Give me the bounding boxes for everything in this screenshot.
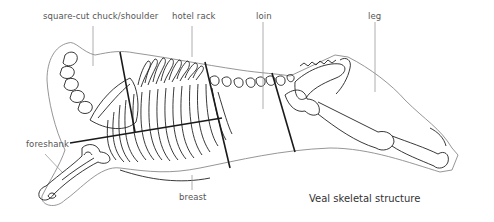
cut-line-chuck [120, 52, 135, 132]
cut-line-rack [205, 62, 230, 168]
cut-lines [70, 52, 295, 168]
label-hotel-rack: hotel rack [172, 11, 216, 21]
label-foreshank: foreshank [26, 139, 69, 149]
label-loin: loin [256, 11, 272, 21]
foreleg-bones-icon [39, 145, 110, 201]
diagram-title: Veal skeletal structure [309, 193, 420, 204]
carcass-outline [42, 43, 458, 206]
label-leg: leg [368, 11, 381, 21]
label-chuck: square-cut chuck/shoulder [43, 11, 158, 21]
shoulder-blade-icon [90, 78, 138, 129]
veal-skeleton-diagram [0, 0, 494, 222]
label-breast: breast [179, 192, 207, 202]
